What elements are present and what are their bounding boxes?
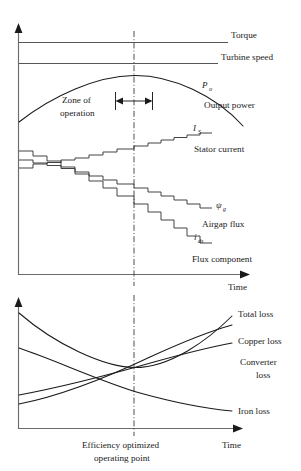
- flux-component-label: Flux component: [192, 254, 252, 264]
- airgap-flux-trace: [19, 160, 212, 208]
- zone-of-operation-label-line1: Zone of: [62, 95, 92, 105]
- bottom-chart-x-axis-arrowhead: [233, 424, 243, 432]
- zone-of-operation-marker: [116, 92, 153, 110]
- flux-component-symbol-sub: ds: [198, 237, 204, 244]
- stator-current-label: Stator current: [194, 144, 245, 154]
- top-chart-xlabel: Time: [228, 282, 247, 292]
- flux-component-trace: [19, 151, 212, 243]
- iron-loss-label: Iron loss: [238, 406, 270, 416]
- airgap-flux-symbol: ψ g: [216, 200, 226, 212]
- converter-loss-label: Converter: [240, 357, 277, 367]
- flux-component-symbol: i ds: [194, 232, 204, 244]
- top-chart-y-axis-arrowhead: [15, 23, 23, 33]
- copper-loss-label: Copper loss: [238, 336, 282, 346]
- stator-current-trace: [19, 133, 212, 168]
- airgap-flux-symbol-base: ψ: [216, 200, 222, 210]
- bottom-chart-xlabel: Time: [222, 440, 241, 450]
- airgap-flux-symbol-sub: g: [223, 205, 226, 212]
- diagram-svg: Torque Turbine speed P o Output power I …: [0, 0, 301, 471]
- operating-point-label-line2: operating point: [94, 453, 150, 463]
- torque-label: Torque: [231, 30, 257, 40]
- output-power-symbol-base: P: [201, 80, 208, 90]
- operating-point-label-line1: Efficiency optimized: [82, 440, 160, 450]
- figure-canvas: Torque Turbine speed P o Output power I …: [0, 0, 301, 471]
- top-chart-x-axis-arrowhead: [240, 270, 250, 278]
- top-chart-group: Torque Turbine speed P o Output power I …: [15, 23, 274, 292]
- stator-current-symbol-sub: S: [198, 128, 201, 135]
- turbine-speed-label: Turbine speed: [221, 52, 273, 62]
- converter-loss-trace: [19, 343, 232, 395]
- bottom-chart-group: Total loss Copper loss Converter loss Ir…: [15, 295, 282, 463]
- airgap-flux-label: Airgap flux: [202, 219, 245, 229]
- zone-of-operation-label-line2: operation: [60, 108, 95, 118]
- output-power-label: Output power: [204, 100, 255, 110]
- output-power-symbol: P o: [201, 80, 212, 92]
- flux-component-symbol-base: i: [194, 232, 197, 242]
- output-power-symbol-sub: o: [209, 85, 212, 92]
- bottom-chart-y-axis-arrowhead: [15, 297, 23, 307]
- total-loss-label: Total loss: [238, 309, 274, 319]
- iron-loss-trace: [19, 348, 232, 411]
- stator-current-symbol-base: I: [192, 123, 197, 133]
- stator-current-symbol: I S: [192, 123, 201, 135]
- converter-loss-label-line2: loss: [256, 370, 271, 380]
